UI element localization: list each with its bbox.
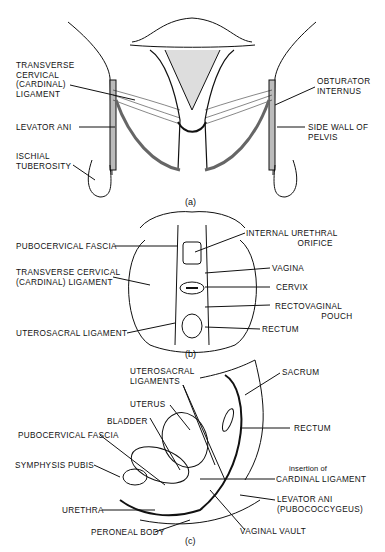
label-pubocervical-fascia-c: PUBOCERVICAL FASCIA xyxy=(18,431,119,441)
label-rectum-b: RECTUM xyxy=(262,325,299,335)
label-transverse-cervical-ligament-a: TRANSVERSE CERVICAL (CARDINAL) LIGAMENT xyxy=(16,61,75,99)
label-uterosacral-ligaments-c: UTEROSACRAL LIGAMENTS xyxy=(130,367,195,386)
label-uterus: UTERUS xyxy=(130,400,165,410)
label-cardinal-ligament-c: CARDINAL LIGAMENT xyxy=(276,475,366,485)
label-pubocervical-fascia-b: PUBOCERVICAL FASCIA xyxy=(16,242,117,252)
label-rectovaginal-pouch: RECTOVAGINAL POUCH xyxy=(275,302,352,321)
label-bladder: BLADDER xyxy=(107,417,148,427)
label-vaginal-vault: VAGINAL VAULT xyxy=(240,527,306,537)
label-rectum-c: RECTUM xyxy=(294,424,331,434)
label-urethra: URETHRA xyxy=(62,506,104,516)
label-transverse-cervical-ligament-b: TRANSVERSE CERVICAL (CARDINAL) LIGAMENT xyxy=(16,268,120,287)
caption-b: (b) xyxy=(185,349,196,359)
label-insertion-of: insertion of xyxy=(289,464,327,474)
label-ischial-tuberosity: ISCHIAL TUBEROSITY xyxy=(16,152,71,171)
label-internal-urethral-orifice: INTERNAL URETHRAL ORIFICE xyxy=(246,229,338,248)
label-uterosacral-ligament-b: UTEROSACRAL LIGAMENT xyxy=(16,329,127,339)
label-peroneal-body: PERONEAL BODY xyxy=(91,528,165,538)
panel-a-drawing xyxy=(68,18,316,197)
caption-c: (c) xyxy=(185,536,196,546)
label-sacrum: SACRUM xyxy=(282,368,319,378)
label-levator-ani-a: LEVATOR ANI xyxy=(16,123,72,133)
label-cervix: CERVIX xyxy=(276,283,308,293)
label-vagina: VAGINA xyxy=(272,264,304,274)
label-levator-ani-pubococcygeus: LEVATOR ANI (PUBOCOCCYGEUS) xyxy=(277,495,363,514)
label-obturator-internus: OBTURATOR INTERNUS xyxy=(317,77,370,96)
caption-a: (a) xyxy=(185,197,196,207)
label-symphysis-pubis: SYMPHYSIS PUBIS xyxy=(15,461,94,471)
label-side-wall-of-pelvis: SIDE WALL OF PELVIS xyxy=(308,123,368,142)
